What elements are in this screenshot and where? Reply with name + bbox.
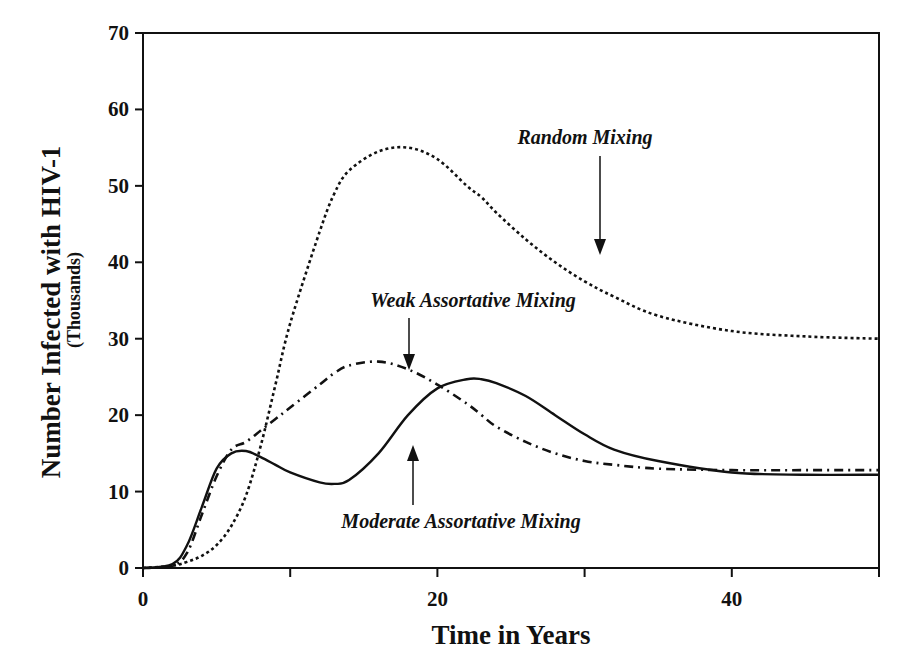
arrow-head-icon <box>594 239 606 255</box>
y-tick-label: 60 <box>108 97 129 121</box>
y-tick-label: 0 <box>119 556 130 580</box>
annotation-label: Weak Assortative Mixing <box>370 289 576 312</box>
series-moderate-assortative-mixing <box>143 378 879 568</box>
x-axis-ticks: 02040 <box>138 568 879 611</box>
series-weak-assortative-mixing <box>143 362 879 568</box>
line-chart: 010203040506070 02040 Random MixingWeak … <box>0 0 899 662</box>
x-tick-label: 20 <box>427 587 448 611</box>
y-tick-label: 20 <box>108 403 129 427</box>
arrow-head-icon <box>407 445 419 461</box>
y-tick-label: 70 <box>108 21 129 45</box>
series-random-mixing <box>143 147 879 568</box>
annotation-label: Random Mixing <box>516 126 652 149</box>
x-tick-label: 0 <box>138 587 149 611</box>
y-tick-label: 10 <box>108 480 129 504</box>
y-axis-ticks: 010203040506070 <box>108 21 143 580</box>
y-tick-label: 40 <box>108 250 129 274</box>
y-tick-label: 50 <box>108 174 129 198</box>
x-axis-title: Time in Years <box>432 620 591 650</box>
y-axis-title: Number Infected with HIV-1 <box>36 146 66 479</box>
y-axis-subtitle: (Thousands) <box>64 252 85 348</box>
y-tick-label: 30 <box>108 327 129 351</box>
annotation-label: Moderate Assortative Mixing <box>340 510 580 533</box>
x-tick-label: 40 <box>721 587 742 611</box>
annotations: Random MixingWeak Assortative MixingMode… <box>340 126 652 533</box>
series-lines <box>143 147 879 568</box>
